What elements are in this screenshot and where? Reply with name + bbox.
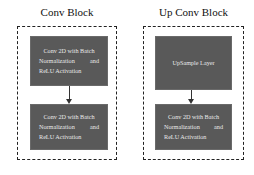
layer-text-line: UpSample Layer [164, 58, 223, 68]
layer-text-word: and [214, 122, 223, 132]
layer-text-word: Normalization [39, 122, 75, 132]
layer-text-line: Conv 2D with Batch [164, 112, 223, 122]
layer-text-word: Normalization [164, 122, 200, 132]
conv-block-title: Conv Block [17, 6, 117, 18]
conv-block-layer-1: Conv 2D with Batch Normalization and ReL… [30, 36, 108, 86]
arrow-connector [69, 86, 70, 100]
layer-text-line: ReLU Activation [164, 132, 223, 142]
layer-text-word: and [90, 122, 99, 132]
layer-text-line: Conv 2D with Batch [39, 46, 99, 56]
up-conv-block-conv-layer: Conv 2D with Batch Normalization and ReL… [155, 104, 232, 150]
conv-block-layer-2: Conv 2D with Batch Normalization and ReL… [30, 104, 108, 150]
layer-text-line: ReLU Activation [39, 132, 99, 142]
up-conv-block-upsample-layer: UpSample Layer [155, 36, 232, 90]
layer-text-line: Normalization and [39, 56, 99, 66]
layer-text-word: and [90, 56, 99, 66]
up-conv-block-title: Up Conv Block [143, 6, 244, 18]
layer-text-line: Normalization and [164, 122, 223, 132]
layer-text-word: Normalization [39, 56, 75, 66]
layer-text-line: ReLU Activation [39, 66, 99, 76]
layer-text-line: Conv 2D with Batch [39, 112, 99, 122]
layer-text-line: Normalization and [39, 122, 99, 132]
